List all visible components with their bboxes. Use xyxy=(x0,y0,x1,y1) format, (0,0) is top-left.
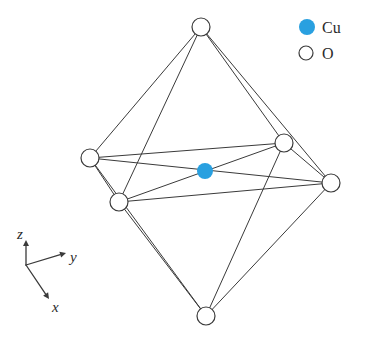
octahedron-edge xyxy=(119,27,201,202)
legend-label-o: O xyxy=(322,45,334,62)
legend-label-cu: Cu xyxy=(322,19,341,36)
oxygen-atom-upper-right xyxy=(275,134,293,152)
axis-triad: zyx xyxy=(16,226,77,315)
legend-open-circle-icon xyxy=(299,46,313,60)
octahedron-edge xyxy=(90,27,201,158)
octahedron-edge xyxy=(206,183,331,316)
oxygen-atom-top xyxy=(192,18,210,36)
octahedron-edge xyxy=(90,158,206,316)
octahedron-figure: zyx CuO xyxy=(0,0,367,352)
axis-label-x: x xyxy=(51,299,59,315)
axis-arrowhead-y xyxy=(59,252,66,258)
axis-line-y xyxy=(26,255,60,265)
octahedron-edge xyxy=(119,183,331,202)
copper-atom-center xyxy=(197,163,213,179)
octahedron-edge xyxy=(201,27,284,143)
axis-arrowhead-x xyxy=(43,292,49,299)
oxygen-atom-bottom xyxy=(197,307,215,325)
axis-label-z: z xyxy=(16,226,23,242)
octahedron-edge xyxy=(206,143,284,316)
octahedron-edge xyxy=(90,143,284,158)
oxygen-atom-far-right xyxy=(322,174,340,192)
legend: CuO xyxy=(299,19,341,62)
oxygen-atom-lower-left xyxy=(110,193,128,211)
octahedron-edge xyxy=(119,202,206,316)
axis-line-x xyxy=(26,265,46,294)
oxygen-atom-left xyxy=(81,149,99,167)
legend-filled-circle-icon xyxy=(299,19,315,35)
axis-label-y: y xyxy=(68,249,77,265)
axis-arrowhead-z xyxy=(23,240,29,246)
copper-atom xyxy=(197,163,213,179)
